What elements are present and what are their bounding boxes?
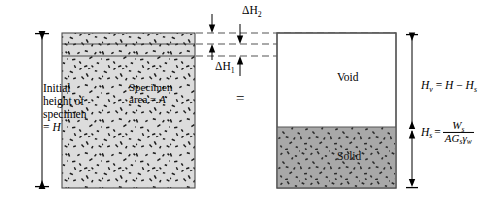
delta-h1-base: ΔH [215, 60, 231, 72]
hs-dimension-line [406, 130, 418, 188]
right-phase-box [277, 33, 396, 188]
hs-fraction: Ws AGsγw [443, 120, 474, 144]
hv-formula: Hv = H − Hs [421, 79, 477, 92]
delta-h2-base: ΔH [242, 4, 258, 16]
hs-equals: = [434, 126, 441, 139]
hv-expr-second: H [466, 79, 474, 91]
hs-lhs: Hs [421, 126, 432, 139]
hs-numerator-subscript: s [461, 124, 464, 133]
hv-dimension-line [406, 33, 418, 130]
hs-denominator-ag: AG [445, 132, 460, 144]
delta-h2-arrows [209, 14, 243, 44]
delta-h1-subscript: 1 [231, 66, 235, 75]
delta-h2-subscript: 2 [258, 10, 262, 19]
hs-denominator: AGsγw [443, 132, 474, 145]
initial-height-variable: H [52, 121, 60, 133]
hv-subscript: v [429, 85, 432, 94]
hv-expr-first: H [445, 79, 453, 91]
hs-formula: Hs = Ws AGsγw [421, 120, 474, 144]
hs-numerator: Ws [450, 120, 466, 132]
hs-subscript: s [429, 131, 432, 140]
hv-expr-second-subscript: s [474, 85, 477, 94]
hs-denominator-gamma-subscript: w [467, 137, 472, 146]
hv-equals: = [436, 79, 443, 91]
figure-canvas: Initial height of specimen = H Specimen … [0, 0, 487, 202]
hv-minus: − [456, 79, 463, 91]
